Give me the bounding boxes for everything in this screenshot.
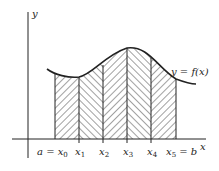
tick-label-x3: x3: [123, 146, 133, 159]
tick-label-x5: x5 = b: [166, 146, 197, 159]
strip-3: [103, 30, 127, 140]
y-axis-label: y: [31, 8, 38, 19]
hatched-region: [55, 30, 176, 140]
riemann-partition-diagram: y x y = f(x) a = x0 x1 x2 x3 x4 x5 = b: [0, 0, 219, 171]
tick-label-x0: a = x0: [37, 146, 68, 159]
strip-5: [151, 30, 176, 140]
curve-label: y = f(x): [170, 66, 209, 77]
tick-label-x4: x4: [147, 146, 158, 159]
strip-2: [79, 30, 103, 140]
tick-label-x1: x1: [75, 146, 85, 159]
strip-1: [55, 30, 79, 140]
x-axis-label: x: [200, 141, 206, 152]
tick-label-x2: x2: [99, 146, 109, 159]
strip-4: [127, 30, 151, 140]
